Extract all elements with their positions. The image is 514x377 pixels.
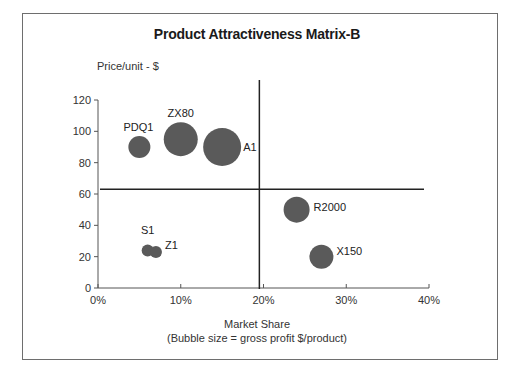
x-tick-label: 0% (90, 294, 106, 306)
y-tick-label: 20 (79, 251, 91, 263)
quadrant-dividers (100, 80, 424, 289)
bubble-label-zx80: ZX80 (168, 107, 194, 119)
bubble-a1 (203, 128, 241, 166)
bubble-z1 (150, 246, 162, 258)
x-tick-label: 40% (418, 294, 440, 306)
bubbles: PDQ1ZX80A1S1Z1R2000X150 (123, 107, 362, 269)
x-tick-label: 30% (335, 294, 357, 306)
bubble-label-z1: Z1 (165, 239, 178, 251)
y-tick-label: 80 (79, 157, 91, 169)
y-tick-label: 60 (79, 188, 91, 200)
bubble-label-s1: S1 (141, 224, 154, 236)
bubble-label-x150: X150 (336, 245, 362, 257)
bubble-label-a1: A1 (243, 141, 256, 153)
y-tick-label: 40 (79, 219, 91, 231)
bubble-r2000 (284, 197, 310, 223)
y-tick-label: 0 (85, 282, 91, 294)
bubble-plot: 0204060801001200%10%20%30%40% PDQ1ZX80A1… (0, 0, 514, 377)
bubble-pdq1 (128, 136, 150, 158)
y-tick-label: 120 (73, 94, 91, 106)
x-tick-label: 20% (252, 294, 274, 306)
bubble-label-pdq1: PDQ1 (123, 121, 153, 133)
y-tick-label: 100 (73, 125, 91, 137)
bubble-x150 (309, 245, 333, 269)
bubble-label-r2000: R2000 (314, 201, 346, 213)
bubble-zx80 (164, 122, 198, 156)
x-tick-label: 10% (170, 294, 192, 306)
